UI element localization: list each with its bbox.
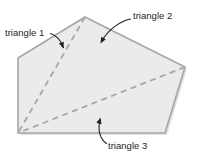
geometry-figure: triangle 1 triangle 2 triangle 3	[0, 0, 201, 161]
label-triangle-1: triangle 1	[5, 27, 44, 38]
label-triangle-2: triangle 2	[133, 10, 172, 21]
figure-canvas: triangle 1 triangle 2 triangle 3	[0, 0, 201, 161]
label-triangle-3: triangle 3	[108, 140, 147, 151]
